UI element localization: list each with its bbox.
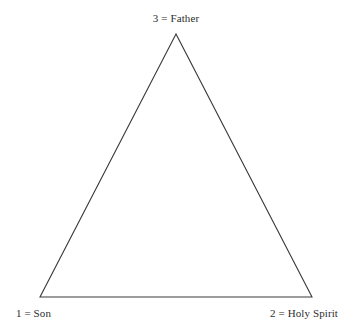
- vertex-label-son: 1 = Son: [16, 308, 51, 319]
- triangle-diagram-figure: 3 = Father 1 = Son 2 = Holy Spirit: [0, 0, 354, 335]
- vertex-label-father: 3 = Father: [153, 13, 199, 24]
- vertex-label-holy-spirit: 2 = Holy Spirit: [270, 308, 338, 319]
- triangle-shape: [0, 0, 354, 335]
- triangle-outline: [40, 34, 312, 297]
